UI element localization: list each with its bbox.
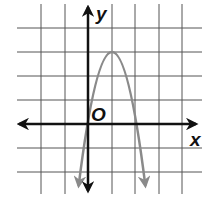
x-axis-label: x [189,129,202,150]
grid [17,4,202,194]
origin-label: O [91,104,106,125]
coordinate-plane: y x O [0,0,202,197]
y-axis-label: y [95,3,108,24]
